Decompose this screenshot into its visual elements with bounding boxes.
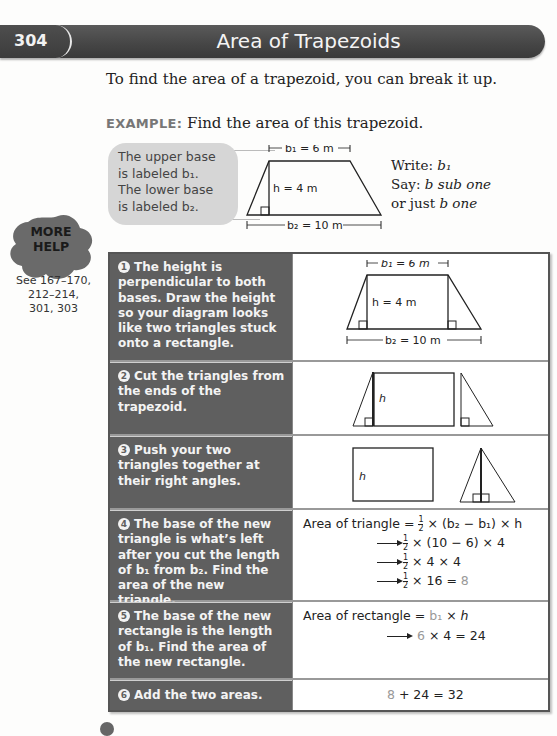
example-trapezoid-diagram: b₁ = 6 m h = 4 m b₂ = 10 m <box>245 145 385 235</box>
step-1-diagram: b₁ = 6 m h = 4 m b₂ = 10 m <box>292 254 548 360</box>
step-row-3: 3Push your two triangles together at the… <box>110 434 548 508</box>
step2-h-label: h <box>379 392 386 405</box>
example-tag: EXAMPLE: <box>106 116 182 131</box>
step-row-6: 6Add the two areas. 8 + 24 = 32 <box>110 678 548 710</box>
step3-h-label: h <box>359 470 366 483</box>
step-number-icon: 4 <box>118 518 130 530</box>
b2-label: b₂ = 10 m <box>287 219 343 232</box>
step-number-icon: 1 <box>118 261 130 273</box>
arrow-icon <box>377 562 401 563</box>
intro-text: To find the area of a trapezoid, you can… <box>106 70 497 88</box>
total-area: 8 + 24 = 32 <box>387 687 464 702</box>
step-row-5: 5The base of the new rectangle is the le… <box>110 600 548 678</box>
callout-bubble: The upper base is labeled b₁. The lower … <box>108 143 238 225</box>
example-heading: EXAMPLE: Find the area of this trapezoid… <box>106 114 423 132</box>
step-4-math: Area of triangle = 12 × (b₂ − b₁) × h 12… <box>292 510 548 600</box>
callout-line: is labeled b₁. <box>118 166 228 183</box>
step-row-4: 4The base of the new triangle is what’s … <box>110 508 548 600</box>
step-3-text: 3Push your two triangles together at the… <box>110 436 292 508</box>
callout-line: The lower base <box>118 182 228 199</box>
arrow-icon <box>377 543 401 544</box>
h-label: h = 4 m <box>273 182 317 195</box>
step-number-icon: 2 <box>118 370 130 382</box>
rectangle-step-2: 6 × 4 = 24 <box>387 628 486 643</box>
triangle-area-result: 8 <box>461 573 469 588</box>
step1-h-label: h = 4 m <box>372 296 416 309</box>
arrow-icon <box>377 581 401 582</box>
see-references: See 167–170, 212–214, 301, 303 <box>6 274 101 316</box>
step-2-diagram: h <box>292 362 548 434</box>
triangle-step-3: 12 × 4 × 4 <box>377 554 461 571</box>
step-6-text: 6Add the two areas. <box>110 680 292 710</box>
or-value: b one <box>439 195 477 211</box>
say-value: b sub one <box>425 176 491 192</box>
page-number: 304 <box>14 31 47 50</box>
callout-line: The upper base <box>118 149 228 166</box>
step-1-text: 1The height is perpendicular to both bas… <box>110 254 292 360</box>
b1-label: b₁ = 6 m <box>285 145 334 155</box>
callout-line: is labeled b₂. <box>118 199 228 216</box>
write-value: b₁ <box>437 157 451 173</box>
more-help-badge: MORE HELP <box>8 224 94 254</box>
step-number-icon: 3 <box>118 444 130 456</box>
step-2-text: 2Cut the triangles from the ends of the … <box>110 362 292 434</box>
rectangle-formula: Area of rectangle = b₁ × h <box>303 608 469 623</box>
example-text: Find the area of this trapezoid. <box>182 114 423 132</box>
step1-b2-label: b₂ = 10 m <box>385 334 441 347</box>
step-5-text: 5The base of the new rectangle is the le… <box>110 602 292 678</box>
step-5-math: Area of rectangle = b₁ × h 6 × 4 = 24 <box>292 602 548 678</box>
say-write-note: Write: b₁ Say: b sub one or just b one <box>391 156 491 213</box>
step-3-diagram: h <box>292 436 548 508</box>
step-row-1: 1The height is perpendicular to both bas… <box>110 254 548 360</box>
step-6-math: 8 + 24 = 32 <box>292 680 548 710</box>
arrow-icon <box>387 636 411 637</box>
step-4-text: 4The base of the new triangle is what’s … <box>110 510 292 600</box>
step1-b1-label: b₁ = 6 m <box>381 260 430 270</box>
steps-table: 1The height is perpendicular to both bas… <box>108 252 550 712</box>
triangle-step-4: 12 × 16 = 8 <box>377 573 469 590</box>
page-title: Area of Trapezoids <box>72 29 545 53</box>
step-number-icon: 6 <box>118 689 130 701</box>
triangle-formula: Area of triangle = 12 × (b₂ − b₁) × h <box>303 516 522 533</box>
step-row-2: 2Cut the triangles from the ends of the … <box>110 360 548 434</box>
step-number-icon: 5 <box>118 610 130 622</box>
triangle-step-2: 12 × (10 − 6) × 4 <box>377 535 505 552</box>
bottom-decoration <box>100 722 114 736</box>
